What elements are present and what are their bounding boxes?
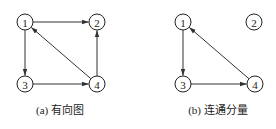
svg-text:4: 4 — [94, 79, 100, 91]
edge-b-4-to-1 — [189, 28, 248, 79]
svg-text:1: 1 — [22, 17, 28, 29]
node-b-1: 1 — [175, 14, 191, 30]
node-b-2: 2 — [246, 14, 262, 30]
node-b-3: 3 — [175, 76, 191, 92]
node-b-4: 4 — [247, 76, 263, 92]
node-a-1: 1 — [17, 14, 33, 30]
caption-connected-component: (b) 连通分量 — [188, 101, 248, 117]
svg-text:3: 3 — [180, 79, 186, 91]
svg-text:3: 3 — [22, 79, 28, 91]
node-a-4: 4 — [89, 76, 105, 92]
svg-text:2: 2 — [251, 17, 257, 29]
svg-text:2: 2 — [94, 17, 100, 29]
edges-layer — [25, 22, 249, 84]
nodes-layer: 12341234 — [17, 14, 263, 92]
svg-text:4: 4 — [252, 79, 258, 91]
node-a-2: 2 — [89, 14, 105, 30]
caption-directed-graph: (a) 有向图 — [36, 101, 84, 117]
svg-text:1: 1 — [180, 17, 186, 29]
node-a-3: 3 — [17, 76, 33, 92]
edge-a-4-to-1 — [31, 28, 90, 79]
